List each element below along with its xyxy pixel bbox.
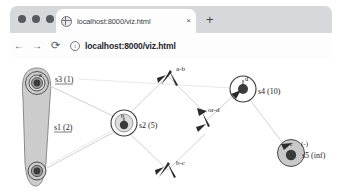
new-tab-button[interactable]: + (206, 13, 214, 26)
browser-window: localhost:8000/viz.html × + ← → ⟳ i loca… (10, 6, 332, 58)
browser-toolbar: ← → ⟳ i localhost:8000/viz.html (10, 33, 332, 58)
node-s5-extra-label: (-) (301, 140, 309, 148)
minimize-window-button[interactable] (32, 15, 40, 23)
site-info-icon[interactable]: i (70, 41, 80, 51)
tab-title: localhost:8000/viz.html (77, 17, 182, 26)
edge-line-s2-top[interactable] (130, 76, 168, 113)
edge-line-s1-long[interactable] (50, 130, 113, 164)
node-s2-glyph: b (121, 112, 124, 119)
edge-line-top-right[interactable] (168, 76, 205, 113)
node-s2[interactable]: b (111, 110, 137, 136)
edge-line-s2-bottom[interactable] (130, 134, 168, 170)
close-icon[interactable]: × (182, 17, 191, 25)
node-s1-label: s1 (2) (54, 123, 73, 132)
graph-visualization[interactable]: a s3 (1) s1 (2) b s2 (5) (0, 58, 342, 196)
close-window-button[interactable] (18, 15, 26, 23)
arrow-or-d-2 (196, 124, 206, 132)
edge-line-s3-long[interactable] (78, 79, 232, 88)
node-s5-glyph: c (290, 140, 293, 147)
node-s4-label: s4 (10) (258, 87, 281, 96)
edge-label-b-c: b-c (176, 159, 185, 167)
node-s2-label: s2 (5) (139, 121, 158, 130)
reload-icon[interactable]: ⟳ (46, 40, 64, 51)
maximize-window-button[interactable] (46, 15, 54, 23)
browser-tab[interactable]: localhost:8000/viz.html × (56, 9, 196, 33)
window-traffic-lights (18, 15, 54, 23)
edge-label-a-b: a-b (176, 65, 185, 73)
edge-line-s1-s2[interactable] (47, 132, 114, 168)
edge-line-s4-s5[interactable] (250, 100, 282, 142)
node-s4[interactable]: d (230, 75, 256, 102)
address-bar-url[interactable]: localhost:8000/viz.html (85, 41, 176, 51)
graph-edge-labels: a-b b-c or-d (176, 65, 220, 167)
globe-icon (61, 16, 72, 27)
forward-icon[interactable]: → (28, 41, 46, 51)
tab-strip: localhost:8000/viz.html × + (10, 6, 332, 33)
node-s5-label: s5 (inf) (302, 151, 326, 160)
node-s3-label: s3 (1) (55, 75, 74, 84)
node-s1[interactable] (28, 162, 46, 180)
back-icon[interactable]: ← (10, 41, 28, 51)
edge-line-bottom-right[interactable] (168, 134, 205, 170)
arrow-or-d-3 (202, 112, 210, 127)
node-s3-glyph: a (39, 71, 42, 78)
edge-label-or-d: or-d (208, 106, 220, 114)
edge-line-s3-s2[interactable] (48, 85, 113, 116)
node-s3[interactable]: a (26, 71, 49, 95)
page-viewport: a s3 (1) s1 (2) b s2 (5) (0, 58, 342, 196)
